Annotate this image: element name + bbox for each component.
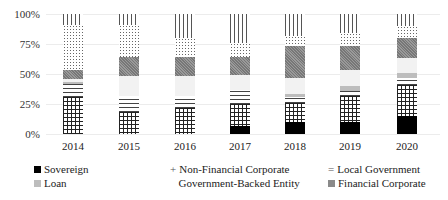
bar-segment-dots xyxy=(63,25,83,71)
bar-segment-non-financial-corporate xyxy=(340,96,360,122)
stacked-bar-chart: 0%25%50%75%100% 201420152016201720182019… xyxy=(0,0,448,200)
legend-item-local-government: =Local Government xyxy=(328,163,420,175)
bar-segment-dots xyxy=(285,36,305,47)
bar-2015 xyxy=(119,14,139,134)
legend-label: Local Government xyxy=(337,163,420,175)
bar-segment-local-government xyxy=(397,78,417,85)
bar-segment-non-financial-corporate xyxy=(63,97,83,134)
bar-segment-financial-corporate xyxy=(175,57,195,76)
legend-label: Loan xyxy=(44,177,67,189)
bar-segment-vertical-lines xyxy=(230,14,250,43)
bar-segment-dots xyxy=(340,33,360,46)
bar-segment-government-backed-entity xyxy=(175,76,195,95)
bar-segment-sovereign xyxy=(340,122,360,134)
x-tick-label: 2018 xyxy=(275,140,315,152)
bar-segment-non-financial-corporate xyxy=(397,85,417,116)
x-tick-label: 2019 xyxy=(330,140,370,152)
bar-segment-dots xyxy=(119,25,139,57)
bar-segment-dots xyxy=(397,26,417,38)
legend-item-financial-corporate: Financial Corporate xyxy=(328,177,426,189)
bar-segment-government-backed-entity xyxy=(119,76,139,95)
bar-segment-local-government xyxy=(175,96,195,108)
bar-segment-vertical-lines xyxy=(340,14,360,33)
x-tick-label: 2016 xyxy=(165,140,205,152)
x-tick-label: 2017 xyxy=(220,140,260,152)
y-tick-label: 75% xyxy=(0,38,40,50)
legend-swatch-icon xyxy=(34,166,41,173)
legend-item-sovereign: Sovereign xyxy=(34,163,89,175)
bar-segment-government-backed-entity xyxy=(397,58,417,72)
bar-segment-non-financial-corporate xyxy=(285,103,305,122)
legend-item-loan: Loan xyxy=(34,177,67,189)
bar-segment-vertical-lines xyxy=(285,14,305,36)
legend-label: Financial Corporate xyxy=(338,177,426,189)
bar-segment-sovereign xyxy=(285,122,305,134)
x-tick-label: 2015 xyxy=(109,140,149,152)
legend-pattern-icon xyxy=(170,177,176,189)
legend-swatch-icon xyxy=(34,180,41,187)
bar-segment-local-government xyxy=(63,84,83,97)
legend-item-government-backed-entity: Government-Backed Entity xyxy=(170,177,300,189)
legend-label: Sovereign xyxy=(44,163,89,175)
legend-label: Non-Financial Corporate xyxy=(179,163,289,175)
bar-2014 xyxy=(63,14,83,134)
bar-segment-financial-corporate xyxy=(340,46,360,70)
bar-segment-government-backed-entity xyxy=(285,78,305,95)
bar-segment-sovereign xyxy=(397,116,417,134)
y-tick-label: 0% xyxy=(0,128,40,140)
bar-2019 xyxy=(340,14,360,134)
gridline xyxy=(46,134,440,135)
y-tick-label: 50% xyxy=(0,68,40,80)
bar-segment-government-backed-entity xyxy=(340,70,360,86)
legend-label: Government-Backed Entity xyxy=(179,177,300,189)
bar-segment-local-government xyxy=(230,90,250,104)
bar-segment-financial-corporate xyxy=(285,46,305,77)
legend-swatch-icon xyxy=(328,180,335,187)
bar-2018 xyxy=(285,14,305,134)
bar-2016 xyxy=(175,14,195,134)
x-tick-label: 2020 xyxy=(387,140,427,152)
y-tick-label: 100% xyxy=(0,8,40,20)
bar-2020 xyxy=(397,14,417,134)
bar-segment-vertical-lines xyxy=(63,14,83,25)
bar-segment-non-financial-corporate xyxy=(119,112,139,134)
bar-segment-non-financial-corporate xyxy=(230,104,250,126)
bar-segment-local-government xyxy=(119,96,139,113)
legend-pattern-icon: + xyxy=(170,163,176,175)
legend-pattern-icon: = xyxy=(328,163,334,175)
bar-segment-non-financial-corporate xyxy=(175,108,195,134)
bar-segment-government-backed-entity xyxy=(230,75,250,89)
bar-segment-dots xyxy=(175,38,195,57)
bar-segment-vertical-lines xyxy=(119,14,139,25)
bar-segment-financial-corporate xyxy=(397,38,417,58)
bar-segment-financial-corporate xyxy=(230,57,250,75)
bar-segment-sovereign xyxy=(230,126,250,134)
x-tick-label: 2014 xyxy=(53,140,93,152)
bar-segment-financial-corporate xyxy=(63,70,83,78)
bar-segment-financial-corporate xyxy=(119,57,139,76)
bar-2017 xyxy=(230,14,250,134)
bar-segment-vertical-lines xyxy=(397,14,417,26)
y-tick-label: 25% xyxy=(0,98,40,110)
legend-item-non-financial-corporate: +Non-Financial Corporate xyxy=(170,163,290,175)
bar-segment-vertical-lines xyxy=(175,14,195,38)
bar-segment-dots xyxy=(230,43,250,57)
